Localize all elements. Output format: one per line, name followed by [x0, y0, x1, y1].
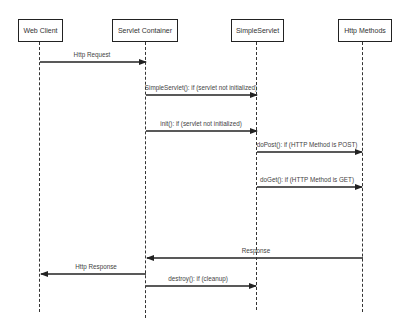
lifeline-simple-servlet [256, 42, 257, 310]
message-label: doPost(): if (HTTP Method is POST) [257, 141, 358, 148]
message-label: destroy(): if (cleanup) [168, 275, 228, 282]
lifeline-http-methods [362, 42, 363, 312]
message-label: SimpleServlet(): if (servlet not initial… [145, 84, 257, 91]
message-label: Http Request [74, 51, 111, 58]
message-label: init(): if (servlet not initialized) [160, 120, 242, 127]
participant-simple-servlet: SimpleServlet [231, 19, 284, 42]
participant-servlet-container: Servlet Container [112, 19, 178, 42]
participant-http-methods: Http Methods [338, 19, 392, 42]
message-label: Response [242, 247, 270, 254]
message-arrows-layer [0, 0, 410, 332]
message-label: doGet(): if (HTTP Method is GET) [260, 176, 354, 183]
participant-web-client: Web Client [18, 19, 63, 42]
message-label: Http Response [75, 263, 117, 270]
lifeline-web-client [39, 42, 40, 312]
